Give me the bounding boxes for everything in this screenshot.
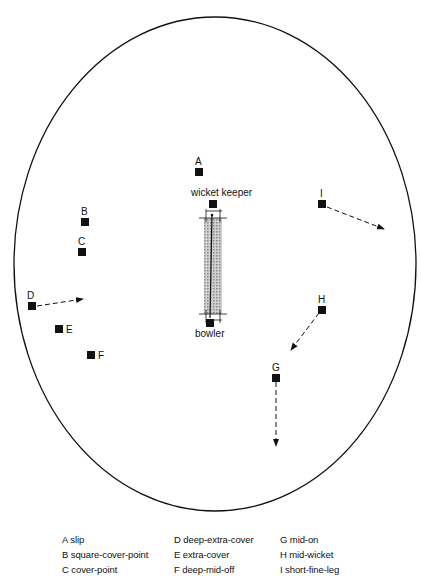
legend-item-a: A slip [62,533,174,546]
legend-item-i: I short-fine-leg [280,563,380,576]
fielder-b: B [81,206,89,226]
fielder-label: B [81,206,88,217]
fielder-d: D [27,290,36,310]
fielder-f: F [87,350,104,361]
legend-item-f: F deep-mid-off [174,563,280,576]
fielder-marker [195,168,203,176]
fielder-marker [28,302,36,310]
arrow-d-movement [37,299,83,306]
fielder-a: A [195,156,203,176]
fielder-marker [318,200,326,208]
fielder-marker [55,325,63,333]
pitch [199,209,227,323]
fielder-h: H [318,294,326,314]
fielder-i: I [318,188,326,208]
fielder-label: F [98,350,104,361]
legend-item-c: C cover-point [62,563,174,576]
fielder-label: E [66,324,73,335]
fielder-label: A [195,156,202,167]
bowler-label: bowler [195,328,225,339]
fielder-e: E [55,324,73,335]
fielder-marker [272,374,280,382]
fielders: ABCDEFGHI [27,156,326,382]
fielder-g: G [272,362,280,382]
wicket-keeper-marker [209,200,217,208]
fielder-marker [78,248,86,256]
legend-item-e: E extra-cover [174,548,280,561]
fielder-c: C [78,236,86,256]
fielder-marker [81,218,89,226]
pitch-strip [204,218,222,314]
fielder-label: C [78,236,85,247]
fielder-label: G [272,362,280,373]
fielder-label: H [318,294,325,305]
arrow-h-movement [291,313,319,350]
fielder-marker [318,306,326,314]
cricket-field-diagram: wicket keeper bowler ABCDEFGHI [0,0,421,588]
legend-item-b: B square-cover-point [62,548,174,561]
legend-item-h: H mid-wicket [280,548,380,561]
stumps-top [211,214,214,217]
fielder-marker [87,351,95,359]
legend: A slipD deep-extra-coverG mid-onB square… [62,533,382,576]
legend-item-g: G mid-on [280,533,380,546]
bowler-marker [206,319,214,327]
wicket-keeper-label: wicket keeper [190,187,253,198]
fielder-label: D [27,290,34,301]
legend-item-d: D deep-extra-cover [174,533,280,546]
fielder-label: I [320,188,323,199]
arrow-i-movement [327,207,384,229]
